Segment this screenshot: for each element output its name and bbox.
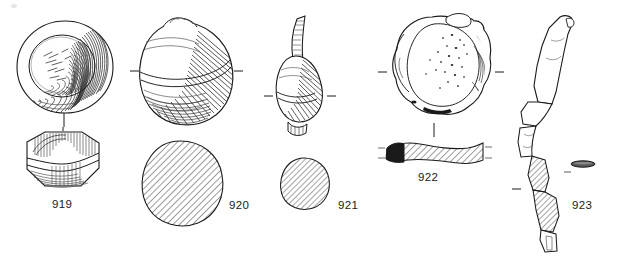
figure-921-section [281, 158, 330, 209]
figure-922-plan-view [378, 14, 504, 137]
figure-923-section [564, 161, 595, 172]
figure-label-922: 922 [418, 171, 438, 183]
artifact-drawing-canvas [0, 0, 618, 260]
figure-label-919: 919 [52, 198, 72, 210]
figure-919-plan-view [17, 21, 113, 127]
figure-921-profile-view [264, 16, 336, 135]
figure-label-923: 923 [572, 199, 592, 211]
scan-speck [11, 4, 17, 8]
figure-920-section [142, 141, 223, 226]
figure-label-920: 920 [229, 199, 249, 211]
figure-920-plan-view [130, 18, 243, 125]
figure-923-profile-view [512, 16, 574, 252]
illustration-plate: 919 920 921 922 923 [0, 0, 618, 260]
figure-919-profile-view [27, 132, 99, 187]
figure-label-921: 921 [338, 199, 358, 211]
figure-922-section [378, 143, 492, 163]
